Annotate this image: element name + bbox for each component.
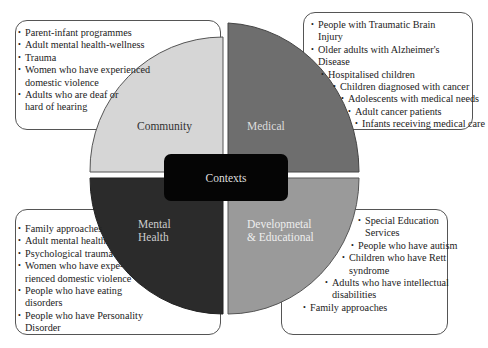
list-item: Adults who are deaf or [18,89,150,101]
list-item-cont: rienced domestic violence [18,273,143,285]
developmental-list: Special Education Services People who ha… [301,215,457,314]
list-item: Children diagnosed with cancer [333,81,485,93]
list-item: Family approaches [18,223,143,235]
list-item-cont: domestic violence [18,77,150,89]
list-item: People who have autism [351,240,457,252]
list-item: Adult mental health [18,235,143,247]
medical-list: People with Traumatic Brain Injury Older… [311,19,485,131]
list-item-cont: disorders [18,297,143,309]
list-item-cont: hard of hearing [18,101,150,113]
list-item: Special Education [358,215,457,227]
list-item: People with Traumatic Brain [311,19,485,31]
list-item: Women who have expe- [18,260,143,272]
list-item-cont: Injury [311,31,485,43]
list-item: Adults who have intellectual [325,277,457,289]
list-item: Adolescents with medical needs [341,93,485,105]
mental-health-list: Family approaches Adult mental health Ps… [18,223,143,335]
list-item: People who have Personality [18,310,143,322]
list-item: Women who have experienced [18,64,150,76]
list-item-cont: Disorder [18,322,143,334]
list-item: Hospitalised children [321,69,485,81]
list-item-cont: disabilities [325,289,457,301]
list-item: Children who have Rett [342,252,457,264]
list-item: Older adults with Alzheimer's [311,44,485,56]
medical-label: Medical [247,120,285,133]
list-item: Family approaches [303,302,457,314]
list-item: Parent-infant programmes [18,27,150,39]
list-item: Adult cancer patients [348,106,485,118]
list-item-cont: Disease [311,56,485,68]
list-item: Adult mental health-wellness [18,39,150,51]
list-item-cont: Services [358,227,457,239]
list-item: Infants receiving medical care [355,118,485,130]
contexts-center-box: Contexts [164,154,288,201]
list-item: People who have eating [18,285,143,297]
list-item-cont: syndrome [342,265,457,277]
list-item: Trauma [18,52,150,64]
contexts-label: Contexts [206,172,247,184]
community-list: Parent-infant programmes Adult mental he… [18,27,150,114]
community-label: Community [137,120,192,133]
list-item: Psychological trauma [18,248,143,260]
